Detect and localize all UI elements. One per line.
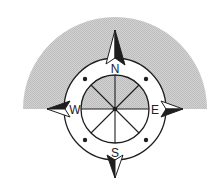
center-hub <box>113 107 118 112</box>
label-south: S <box>111 146 119 160</box>
compass-diagram: N S W E <box>0 0 216 196</box>
label-east: E <box>151 103 159 117</box>
label-north: N <box>111 62 120 76</box>
label-west: W <box>69 103 81 117</box>
